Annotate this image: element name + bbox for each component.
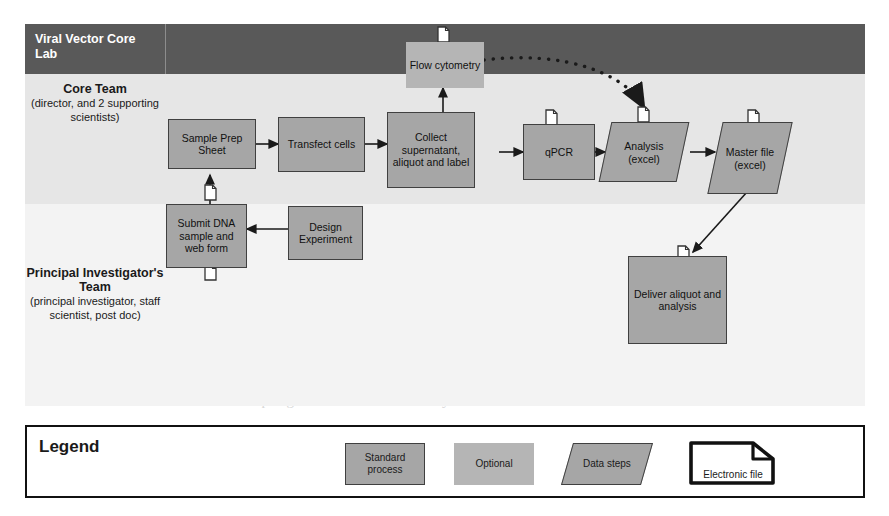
node-qpcr[interactable]: qPCR [523, 124, 595, 180]
node-label: Submit DNA sample and web form [170, 217, 243, 255]
legend-label: Electronic file [685, 439, 781, 487]
legend-label: Data steps [583, 458, 631, 470]
node-label: Master file (excel) [719, 146, 781, 171]
swimlane-core-title: Core Team [25, 82, 165, 96]
electronic-file-icon [637, 106, 650, 123]
electronic-file-icon [437, 26, 450, 43]
node-deliver-aliquot[interactable]: Deliver aliquot and analysis [628, 256, 727, 344]
legend-swatch-data-steps: Data steps [561, 443, 653, 485]
legend-label: Standard process [346, 452, 424, 476]
node-transfect-cells[interactable]: Transfect cells [278, 117, 365, 172]
node-label: Analysis (excel) [609, 140, 679, 165]
electronic-file-icon [204, 184, 217, 201]
node-label: Transfect cells [288, 138, 355, 151]
node-label: qPCR [545, 146, 573, 159]
legend-swatch-electronic-file: Electronic file [685, 439, 781, 487]
node-label: Collect supernatant, aliquot and label [391, 131, 471, 169]
node-label: Design Experiment [292, 221, 359, 246]
node-analysis-excel[interactable]: Analysis (excel) [599, 122, 690, 182]
node-flow-cytometry[interactable]: Flow cytometry [406, 42, 484, 88]
node-sample-prep-sheet[interactable]: Sample Prep Sheet [168, 119, 256, 169]
legend-swatch-standard-process: Standard process [345, 443, 425, 485]
legend-panel: Legend Standard process Optional Data st… [25, 425, 865, 498]
swimlane-core-subtitle: (director, and 2 supporting scientists) [25, 96, 165, 124]
node-collect-supernatant[interactable]: Collect supernatant, aliquot and label [387, 112, 475, 188]
legend-title: Legend [39, 437, 99, 457]
legend-swatch-optional: Optional [454, 443, 534, 485]
node-label: Sample Prep Sheet [172, 132, 252, 157]
node-submit-dna-sample[interactable]: Submit DNA sample and web form [166, 204, 247, 268]
page-title: Viral Vector Core Lab [35, 32, 161, 62]
node-label: Flow cytometry [410, 59, 481, 72]
swimlane-pi-title: Principal Investigator's Team [25, 266, 165, 294]
swimlane-pi-subtitle: (principal investigator, staff scientist… [25, 294, 165, 322]
node-label: Deliver aliquot and analysis [632, 288, 723, 313]
swimlane-label-core-team: Core Team (director, and 2 supporting sc… [25, 82, 165, 124]
workflow-diagram: Viral Vector Core Lab Core Team (directo… [25, 24, 865, 406]
node-design-experiment[interactable]: Design Experiment [288, 206, 363, 260]
legend-label: Optional [475, 458, 512, 470]
header-divider [165, 24, 166, 74]
swimlane-label-pi-team: Principal Investigator's Team (principal… [25, 266, 165, 322]
